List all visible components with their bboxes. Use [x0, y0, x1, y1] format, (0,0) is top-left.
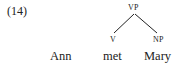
word-met: met	[103, 50, 122, 63]
node-np: NP	[153, 36, 164, 44]
branch-vp-np	[135, 14, 157, 33]
branch-vp-v	[114, 14, 134, 33]
word-mary: Mary	[144, 50, 171, 63]
node-v: V	[110, 36, 116, 44]
word-ann: Ann	[50, 50, 72, 63]
node-vp: VP	[128, 4, 139, 12]
